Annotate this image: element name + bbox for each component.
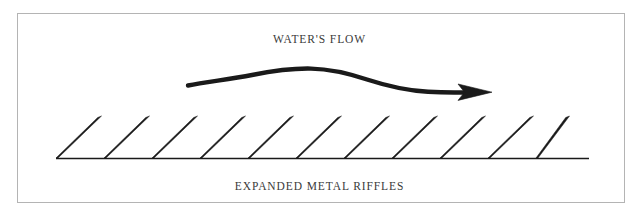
- flow-label: WATER'S FLOW: [0, 33, 639, 45]
- figure-root: WATER'S FLOW EXPANDED METAL RIFFLES: [0, 0, 639, 221]
- waters-flow-arrow: [188, 69, 492, 101]
- riffle-blade: [488, 116, 534, 158]
- riffle-blade: [104, 116, 150, 158]
- riffles-label: EXPANDED METAL RIFFLES: [0, 180, 639, 192]
- riffle-blades-group: [56, 116, 570, 158]
- riffle-blade: [200, 116, 246, 158]
- riffle-blade: [392, 116, 438, 158]
- flow-curve-path: [188, 69, 472, 93]
- riffle-bed-group: [56, 116, 589, 159]
- riffle-blade: [344, 116, 390, 158]
- riffle-blade: [440, 116, 486, 158]
- riffle-blade: [152, 116, 198, 158]
- riffle-blade: [536, 116, 570, 158]
- riffle-blade: [296, 116, 342, 158]
- riffle-blade: [56, 116, 102, 158]
- riffle-blade: [248, 116, 294, 158]
